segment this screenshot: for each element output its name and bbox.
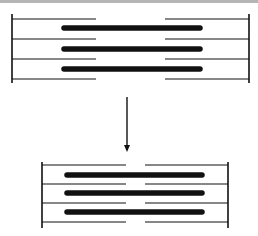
transition-arrow: [124, 97, 130, 152]
contracted-sarcomere: [42, 162, 228, 228]
arrow-head-icon: [124, 145, 130, 152]
sarcomere-diagram: [0, 0, 258, 236]
relaxed-sarcomere: [12, 14, 249, 83]
